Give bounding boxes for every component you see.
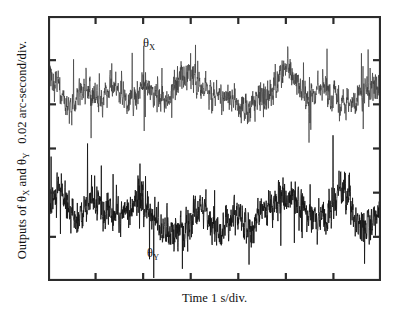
y-axis-label-prefix: Outputs of: [15, 202, 29, 259]
y-axis-label-theta-x-symbol: θ: [15, 196, 29, 202]
plot-svg: [48, 16, 381, 281]
plot-area: [48, 16, 381, 281]
y-axis-label-conjunction: and: [15, 165, 29, 190]
y-axis-label-theta-x-subscript: X: [21, 190, 31, 196]
y-axis-label-container: Outputs of θX and θY0.02 arc-second/div.: [0, 0, 46, 300]
y-axis-label: Outputs of θX and θY0.02 arc-second/div.: [16, 41, 30, 260]
figure-root: Outputs of θX and θY0.02 arc-second/div.…: [0, 0, 397, 316]
y-axis-label-theta-y-symbol: θ: [15, 159, 29, 165]
y-axis-label-units: 0.02 arc-second/div.: [15, 41, 29, 144]
y-axis-label-theta-y-subscript: Y: [21, 153, 31, 159]
x-axis-label: Time 1 s/div.: [48, 291, 381, 306]
